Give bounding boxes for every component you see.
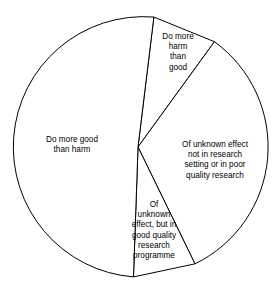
pie-chart-graphic [0, 0, 278, 288]
pie-slice-do-more-good-than-harm[interactable] [13, 17, 154, 277]
pie-chart-figure: Do more good than harm Do more harm than… [0, 0, 278, 288]
